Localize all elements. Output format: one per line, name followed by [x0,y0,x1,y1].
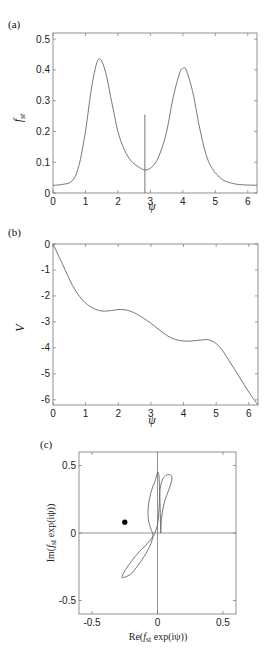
axes-frame [53,244,258,405]
data-curve [53,244,258,405]
panel-label-b: (b) [8,226,21,239]
panel-c-ylabel: Im(fst exp(iψ)) [45,504,58,563]
x-tick-label: 1 [83,408,89,419]
x-tick-label: 0 [50,408,56,419]
panel-a-ylabel: fst [11,113,27,122]
x-tick-label: 4 [180,196,186,207]
panel-c-plot: -0.500.5-0.500.5 [59,452,236,628]
panel-label-a: (a) [8,18,21,31]
x-tick-label: -0.5 [83,617,101,628]
y-tick-label: 0.5 [62,460,76,471]
svg-text:Im(fst exp(iψ)): Im(fst exp(iψ)) [45,504,58,563]
x-tick-label: 6 [246,408,252,419]
y-tick-label: -0.5 [59,595,77,606]
y-tick-label: 0 [70,528,76,539]
y-tick-label: -3 [41,316,50,327]
x-tick-label: 0.5 [216,617,230,628]
panel-a-xlabel: ψ [148,199,156,213]
y-tick-label: -1 [41,264,50,275]
y-tick-label: 0 [44,188,50,199]
data-curve [122,472,172,578]
x-tick-label: 5 [213,408,219,419]
x-tick-label: 4 [181,408,187,419]
panel-b-plot: 01234560-1-2-3-4-5-6 [41,239,258,420]
y-tick-label: 0.2 [36,126,50,137]
panel-a-plot: 012345600.10.20.30.40.5 [36,33,257,207]
y-tick-label: 0 [44,239,50,250]
x-tick-label: 2 [115,196,121,207]
y-tick-label: -2 [41,290,50,301]
y-tick-label: -5 [41,368,50,379]
axes-frame [53,33,257,193]
figure: (a) (b) (c) 012345600.10.20.30.40.5 0123… [0,0,265,654]
data-curve [53,59,257,186]
point-marker [122,520,127,525]
x-tick-label: 2 [115,408,121,419]
panel-c-xlabel: Re(fst exp(iψ)) [129,631,188,644]
panel-b-xlabel: ψ [148,413,156,427]
x-tick-label: 1 [83,196,89,207]
x-tick-label: 0 [50,196,56,207]
y-tick-label: -4 [41,342,50,353]
svg-text:fst: fst [11,113,27,122]
x-tick-label: 5 [213,196,219,207]
y-tick-label: -6 [41,394,50,405]
svg-text:V: V [13,323,27,332]
panel-label-c: (c) [40,438,53,451]
y-tick-label: 0.3 [36,95,50,106]
y-tick-label: 0.4 [36,64,50,75]
y-tick-label: 0.1 [36,157,50,168]
panel-b-ylabel: V [13,323,27,332]
x-tick-label: 6 [245,196,251,207]
y-tick-label: 0.5 [36,34,50,45]
x-tick-label: 0 [155,617,161,628]
